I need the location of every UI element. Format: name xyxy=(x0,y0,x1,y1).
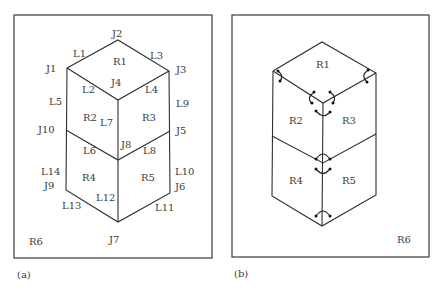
label-j5: J5 xyxy=(175,125,186,136)
label-r4: R4 xyxy=(289,175,303,186)
figure: J2 J1 J3 J4 J10 J5 J8 J9 J6 J7 L1 L3 L2 … xyxy=(0,0,443,299)
label-l8: L8 xyxy=(143,145,156,156)
label-j4: J4 xyxy=(110,77,121,88)
label-l2: L2 xyxy=(82,84,95,95)
label-j2: J2 xyxy=(111,28,122,39)
label-j3: J3 xyxy=(175,64,186,75)
label-l6: L6 xyxy=(83,145,96,156)
label-r5: R5 xyxy=(141,172,155,183)
label-r2: R2 xyxy=(83,112,97,123)
arc-arrow-icon xyxy=(364,69,370,84)
label-j6: J6 xyxy=(174,181,185,192)
panel-a-frame xyxy=(14,15,212,258)
caption-a: (a) xyxy=(17,269,31,280)
label-j1: J1 xyxy=(45,63,56,74)
label-l7: L7 xyxy=(100,117,113,128)
label-j10: J10 xyxy=(37,124,55,135)
label-j9: J9 xyxy=(43,180,54,191)
arc-arrow-icon xyxy=(315,211,332,218)
label-l12: L12 xyxy=(96,192,115,203)
label-l14: L14 xyxy=(41,166,60,177)
label-l3: L3 xyxy=(150,50,163,61)
label-j7: J7 xyxy=(108,234,119,245)
label-r1: R1 xyxy=(113,56,127,67)
label-r6: R6 xyxy=(397,234,411,245)
label-r5: R5 xyxy=(342,175,356,186)
label-l1: L1 xyxy=(73,48,86,59)
panel-a: J2 J1 J3 J4 J10 J5 J8 J9 J6 J7 L1 L3 L2 … xyxy=(14,15,212,280)
top-inner-edges xyxy=(273,71,376,103)
caption-b: (b) xyxy=(234,268,248,279)
label-r1: R1 xyxy=(316,59,330,70)
label-l10: L10 xyxy=(175,166,194,177)
label-r3: R3 xyxy=(342,115,356,126)
label-l9: L9 xyxy=(176,98,189,109)
center-edge xyxy=(322,103,323,226)
label-j8: J8 xyxy=(120,139,131,150)
label-r6: R6 xyxy=(29,236,43,247)
label-r2: R2 xyxy=(289,115,303,126)
panel-a-stacked-cubes xyxy=(66,40,170,222)
label-l4: L4 xyxy=(145,84,158,95)
label-l13: L13 xyxy=(62,200,81,211)
label-r4: R4 xyxy=(82,172,96,183)
panel-b: R1 R2 R3 R4 R5 R6 (b) xyxy=(232,15,429,279)
label-l5: L5 xyxy=(49,96,62,107)
label-r3: R3 xyxy=(142,112,156,123)
label-l11: L11 xyxy=(155,202,174,213)
middle-seam xyxy=(272,134,376,163)
